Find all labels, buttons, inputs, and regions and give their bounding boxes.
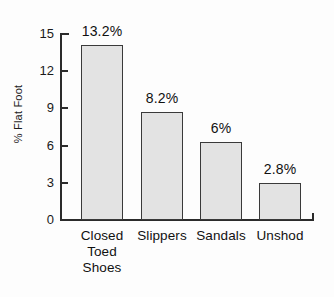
bar-value-label: 6%: [181, 120, 261, 136]
y-axis-tick: [60, 70, 68, 72]
y-axis-tick-label: 9: [32, 101, 54, 114]
y-axis-tick-label: 6: [32, 139, 54, 152]
bar: [200, 142, 242, 220]
bar-chart-figure: % Flat Foot 03691215 13.2%Closed Toed Sh…: [0, 0, 334, 297]
y-axis-title: % Flat Foot: [12, 69, 24, 159]
y-axis-tick: [60, 107, 68, 109]
y-axis-tick-label-wrap: 9: [30, 101, 54, 114]
bar-value-label: 8.2%: [122, 90, 202, 106]
y-axis-tick-label-wrap: 12: [30, 64, 54, 77]
y-axis-line: [60, 33, 62, 221]
y-axis-tick-label: 0: [32, 213, 54, 226]
bar: [259, 183, 301, 220]
y-axis-tick-label: 15: [32, 27, 54, 40]
bar: [81, 45, 123, 220]
bar: [141, 112, 183, 220]
y-axis-tick: [60, 182, 68, 184]
y-axis-tick-label-wrap: 6: [30, 139, 54, 152]
x-axis-end-tick: [312, 213, 314, 221]
bar-value-label: 2.8%: [240, 161, 320, 177]
bar-value-label: 13.2%: [62, 23, 142, 39]
y-axis-tick-label: 3: [32, 176, 54, 189]
y-axis-tick-label-wrap: 15: [30, 27, 54, 40]
y-axis-tick-label-wrap: 0: [30, 213, 54, 226]
y-axis-tick-label-wrap: 3: [30, 176, 54, 189]
y-axis-tick: [60, 145, 68, 147]
x-axis-category-label: Unshod: [240, 228, 320, 244]
y-axis-tick-label: 12: [32, 64, 54, 77]
